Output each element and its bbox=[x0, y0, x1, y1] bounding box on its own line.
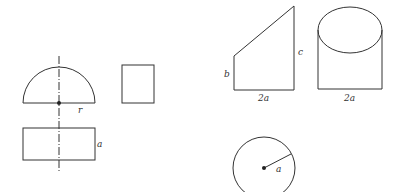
cylinder-top-ellipse bbox=[318, 7, 382, 53]
label-2a-trapezoid: 2a bbox=[257, 93, 269, 103]
circle-shape bbox=[233, 137, 295, 192]
side-rectangle bbox=[122, 65, 154, 103]
label-b: b bbox=[224, 69, 230, 79]
hemisphere-center-dot bbox=[57, 101, 61, 105]
label-a-circle: a bbox=[276, 164, 281, 174]
cylinder-body bbox=[318, 30, 382, 89]
label-c: c bbox=[298, 47, 303, 57]
circle-center-dot bbox=[262, 166, 266, 170]
label-2a-cylinder: 2a bbox=[343, 93, 355, 103]
label-a-rect: a bbox=[97, 139, 102, 149]
diagram-canvas: r a b c 2a 2a a bbox=[0, 0, 400, 192]
trapezoid-shape bbox=[234, 6, 294, 90]
label-r: r bbox=[78, 105, 83, 115]
